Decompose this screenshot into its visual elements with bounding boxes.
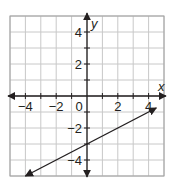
series-line: [25, 108, 156, 176]
x-tick-label: 2: [114, 99, 121, 114]
y-axis-label: y: [90, 16, 99, 31]
coordinate-plane: −4−202442−2−4 x y: [0, 0, 170, 179]
y-tick-label: −4: [67, 153, 82, 168]
x-tick-label: −2: [49, 99, 64, 114]
plotted-line: [25, 108, 156, 176]
y-tick-label: 2: [75, 57, 82, 72]
x-tick-label: −4: [18, 99, 33, 114]
x-axis-label: x: [157, 79, 165, 94]
y-tick-label: 4: [75, 25, 82, 40]
x-tick-label: 0: [75, 99, 82, 114]
y-tick-label: −2: [67, 121, 82, 136]
axes: [8, 13, 166, 177]
